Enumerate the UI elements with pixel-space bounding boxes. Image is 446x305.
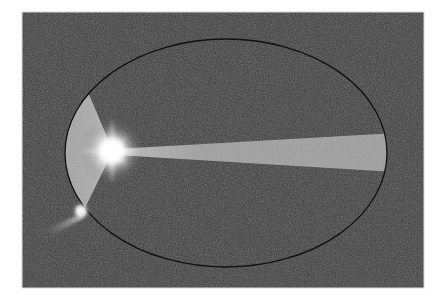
bright-core (78, 117, 146, 185)
companion-knot-core (77, 207, 85, 215)
figure-root (0, 0, 446, 305)
companion-knot (71, 201, 91, 221)
core-center (101, 140, 123, 162)
figure-canvas (0, 0, 446, 305)
